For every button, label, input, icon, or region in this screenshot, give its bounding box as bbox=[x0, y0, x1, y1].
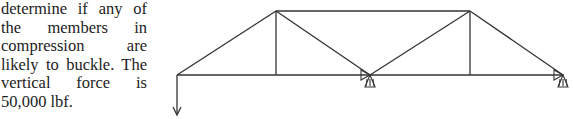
member-ab bbox=[177, 11, 276, 75]
truss-diagram bbox=[0, 0, 573, 119]
truss-members bbox=[173, 11, 563, 115]
member-bd bbox=[276, 11, 370, 75]
support-pin-right-icon bbox=[554, 70, 568, 87]
member-de bbox=[370, 11, 470, 75]
member-eg bbox=[470, 11, 563, 75]
